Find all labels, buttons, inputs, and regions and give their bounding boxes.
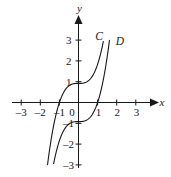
y-tick-label-2: 2 [66,55,72,67]
x-tick-label-3: 3 [134,106,140,118]
y-tick-label-neg1: –1 [62,117,74,129]
y-axis-label: y [76,2,82,14]
origin-label: 0 [69,106,75,118]
math-figure-cubic-curves: –3 –2 –1 1 2 3 3 2 1 –1 –2 –3 0 x y C D [0,0,171,177]
y-tick-label-neg3: –3 [62,159,75,171]
x-tick-label-neg2: –2 [34,106,46,118]
x-tick-label-neg3: –3 [15,106,28,118]
x-axis-arrow-icon [150,99,159,107]
y-axis-arrow-icon [75,15,83,24]
x-tick-label-2: 2 [115,106,121,118]
axis-group [12,15,159,168]
x-tick-label-neg1: –1 [53,106,65,118]
curve-label-c: C [95,30,103,42]
y-tick-label-neg2: –2 [62,138,74,150]
coordinate-plot: –3 –2 –1 1 2 3 3 2 1 –1 –2 –3 0 x y C D [0,0,171,177]
y-tick-label-1: 1 [66,76,72,88]
x-tick-label-1: 1 [96,106,102,118]
curve-c-graph [48,41,104,164]
y-tick-label-3: 3 [66,34,72,46]
curve-label-d: D [115,35,125,47]
x-axis-label: x [159,96,165,108]
